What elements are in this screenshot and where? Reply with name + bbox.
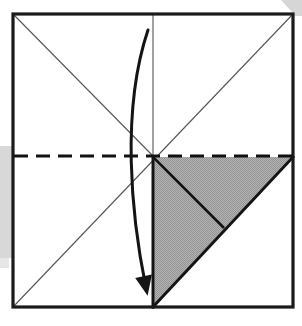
shadow-bottom-left-tick	[0, 258, 9, 268]
origami-diagram-container	[0, 0, 302, 326]
origami-diagram-svg	[0, 0, 302, 326]
shadow-left-band	[0, 146, 13, 258]
